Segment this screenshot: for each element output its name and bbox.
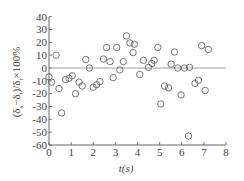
y-tick-label: -50 xyxy=(32,126,47,138)
data-point-open-circle-icon xyxy=(120,58,126,64)
x-tick-label: 7 xyxy=(201,146,207,158)
data-point-open-circle-icon xyxy=(140,57,146,63)
x-axis-ticks: 012345678 xyxy=(46,142,229,158)
data-point-open-circle-icon xyxy=(198,42,204,48)
y-tick-label: -10 xyxy=(32,75,47,87)
data-point-open-circle-icon xyxy=(103,44,109,50)
data-point-open-circle-icon xyxy=(137,71,143,77)
y-tick-label: -20 xyxy=(32,87,47,99)
y-tick-label: 40 xyxy=(36,11,48,23)
x-axis-label: t(s) xyxy=(119,162,134,175)
data-point-open-circle-icon xyxy=(53,52,59,58)
data-point-open-circle-icon xyxy=(155,44,161,50)
x-tick-label: 1 xyxy=(68,146,74,158)
data-point-open-circle-icon xyxy=(58,110,64,116)
svg-text:(δs−δt)/δt×100%: (δs−δt)/δt×100% xyxy=(10,47,25,118)
data-point-open-circle-icon xyxy=(100,56,106,62)
data-point-open-circle-icon xyxy=(165,85,171,91)
data-point-open-circle-icon xyxy=(158,101,164,107)
x-tick-label: 4 xyxy=(135,146,141,158)
data-point-open-circle-icon xyxy=(123,33,129,39)
x-tick-label: 5 xyxy=(157,146,163,158)
data-points xyxy=(46,33,212,139)
x-tick-label: 8 xyxy=(223,146,229,158)
data-point-open-circle-icon xyxy=(107,58,113,64)
axes xyxy=(49,17,226,145)
y-tick-label: -30 xyxy=(32,100,47,112)
y-axis-label: (δs−δt)/δt×100% xyxy=(10,47,25,118)
axis-lines xyxy=(49,17,226,145)
data-point-open-circle-icon xyxy=(127,40,133,46)
data-point-open-circle-icon xyxy=(110,74,116,80)
data-point-open-circle-icon xyxy=(168,61,174,67)
data-point-open-circle-icon xyxy=(83,56,89,62)
y-tick-label: 20 xyxy=(36,36,48,48)
data-point-open-circle-icon xyxy=(205,46,211,52)
y-tick-label: -60 xyxy=(32,139,47,151)
data-point-open-circle-icon xyxy=(72,90,78,96)
data-point-open-circle-icon xyxy=(130,49,136,55)
data-point-open-circle-icon xyxy=(56,85,62,91)
data-point-open-circle-icon xyxy=(161,83,167,89)
data-point-open-circle-icon xyxy=(114,44,120,50)
data-point-open-circle-icon xyxy=(145,64,151,70)
x-tick-label: 6 xyxy=(179,146,185,158)
y-tick-label: -40 xyxy=(32,113,47,125)
y-tick-label: 0 xyxy=(42,62,48,74)
data-point-open-circle-icon xyxy=(171,49,177,55)
y-tick-label: 30 xyxy=(36,23,48,35)
data-point-open-circle-icon xyxy=(185,133,191,139)
y-tick-label: 10 xyxy=(36,49,48,61)
data-point-open-circle-icon xyxy=(178,92,184,98)
scatter-chart: (δs−δt)/δt×100% 403020100-10-20-30-40-50… xyxy=(0,0,244,181)
data-point-open-circle-icon xyxy=(202,87,208,93)
x-tick-label: 0 xyxy=(46,146,52,158)
x-tick-label: 2 xyxy=(91,146,97,158)
x-tick-label: 3 xyxy=(113,146,119,158)
data-point-open-circle-icon xyxy=(131,41,137,47)
